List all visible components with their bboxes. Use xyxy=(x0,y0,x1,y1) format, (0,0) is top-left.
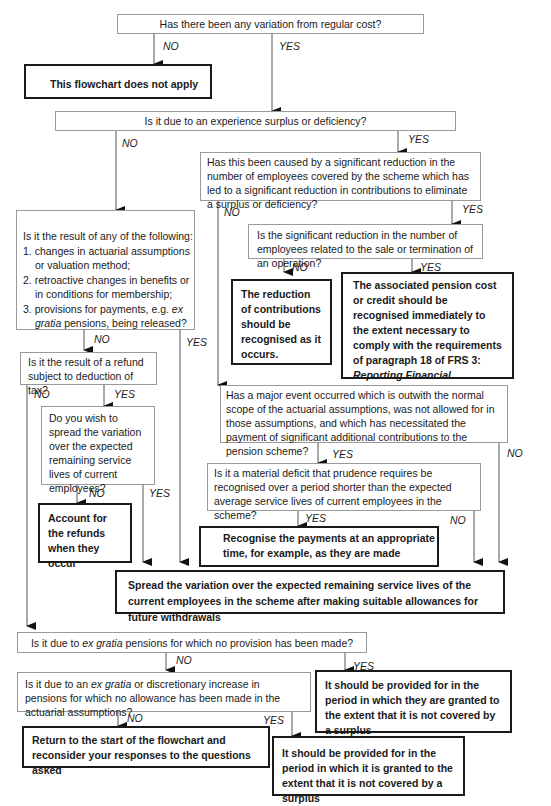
q8-yes-label: YES xyxy=(332,448,353,460)
q10-no-label: NO xyxy=(176,654,192,666)
q9-no-label: NO xyxy=(450,514,466,526)
q2-no-label: NO xyxy=(122,137,138,149)
question-regular-cost-variation: Has there been any variation from regula… xyxy=(117,14,424,34)
q7-no-label: NO xyxy=(89,487,105,499)
q1-no-label: NO xyxy=(163,40,179,52)
q1-yes-label: YES xyxy=(279,40,300,52)
question-ex-gratia-no-provision: Is it due to ex gratia pensions for whic… xyxy=(17,632,367,653)
question-major-event: Has a major event occurred which is outw… xyxy=(220,385,508,443)
outcome-recognise-payments: Recognise the payments at an appropriate… xyxy=(199,526,439,567)
outcome-spread-variation: Spread the variation over the expected r… xyxy=(115,570,505,614)
question-ex-gratia-discretionary-increase: Is it due to an ex gratia or discretiona… xyxy=(17,672,311,712)
q11-yes-label: YES xyxy=(263,714,284,726)
question-experience-surplus: Is it due to an experience surplus or de… xyxy=(55,111,456,131)
question-material-deficit: Is it a material deficit that prudence r… xyxy=(207,463,481,511)
q5-no-label: NO xyxy=(94,333,110,345)
q8-no-label: NO xyxy=(507,447,523,459)
q11-no-label: NO xyxy=(127,712,143,724)
outcome-flowchart-not-apply: This flowchart does not apply xyxy=(24,64,212,99)
q7-yes-label: YES xyxy=(149,487,170,499)
question-spread-variation: Do you wish to spread the variation over… xyxy=(41,406,155,485)
q4-no-label: NO xyxy=(292,261,308,273)
q9-yes-label: YES xyxy=(305,512,326,524)
outcome-account-for-refunds: Account for the refunds when they occur xyxy=(38,503,132,563)
outcome-associated-pension-cost: The associated pension cost or credit sh… xyxy=(341,272,514,379)
outcome-reduction-recognised: The reduction of contributions should be… xyxy=(231,279,332,365)
question-significant-reduction: Has this been caused by a significant re… xyxy=(200,152,481,201)
question-refund-tax: Is it the result of a refund subject to … xyxy=(20,352,157,385)
question-result-of-following: Is it the result of any of the following… xyxy=(16,210,195,330)
q2-yes-label: YES xyxy=(408,133,429,145)
outcome-provided-it-granted: It should be provided for in the period … xyxy=(272,736,465,796)
q5-yes-label: YES xyxy=(186,336,207,348)
q3-yes-label: YES xyxy=(462,203,483,215)
outcome-provided-they-granted: It should be provided for in the period … xyxy=(315,670,512,733)
q6-yes-label: YES xyxy=(114,388,135,400)
q6-no-label: NO xyxy=(34,388,50,400)
question-sale-or-termination: Is the significant reduction in the numb… xyxy=(248,224,483,259)
outcome-return-to-start: Return to the start of the flowchart and… xyxy=(22,726,270,768)
q3-no-label: NO xyxy=(224,206,240,218)
